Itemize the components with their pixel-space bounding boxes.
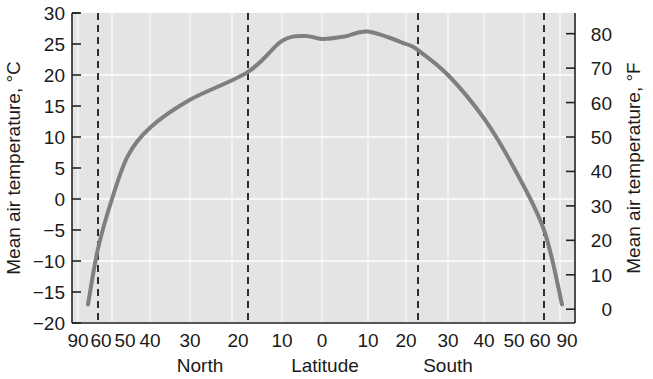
x-tick-label: 50 (503, 330, 524, 351)
y-right-tick-label: 20 (591, 230, 612, 251)
y-tick-label: 5 (54, 158, 65, 179)
y-tick-label: 30 (44, 3, 65, 24)
x-tick-label: 0 (317, 330, 328, 351)
temperature-latitude-chart: 302520151050−5−10−15−20 8070605040302010… (0, 0, 653, 379)
right-y-axis-title: Mean air temperature, °F (623, 62, 644, 273)
x-axis-tick-labels: 90605040302010010203040506090 (67, 330, 577, 351)
y-right-tick-label: 80 (591, 24, 612, 45)
x-tick-label: 60 (90, 330, 111, 351)
y-tick-label: 0 (54, 189, 65, 210)
x-tick-label: 10 (357, 330, 378, 351)
x-axis-label-south: South (423, 355, 473, 376)
x-tick-label: 50 (114, 330, 135, 351)
x-tick-label: 90 (556, 330, 577, 351)
x-tick-label: 30 (179, 330, 200, 351)
y-tick-label: 10 (44, 127, 65, 148)
x-tick-label: 20 (395, 330, 416, 351)
x-tick-label: 10 (271, 330, 292, 351)
x-axis-label-north: North (177, 355, 223, 376)
x-tick-label: 40 (139, 330, 160, 351)
y-right-tick-label: 0 (601, 299, 612, 320)
y-tick-label: 20 (44, 65, 65, 86)
plot-area (72, 13, 575, 323)
y-tick-label: −15 (33, 282, 65, 303)
y-right-tick-label: 60 (591, 93, 612, 114)
x-axis-title: Latitude (291, 355, 359, 376)
left-y-axis-title: Mean air temperature, °C (3, 61, 24, 275)
y-tick-label: −10 (33, 251, 65, 272)
y-right-tick-label: 50 (591, 127, 612, 148)
y-right-tick-label: 70 (591, 58, 612, 79)
y-tick-label: −20 (33, 313, 65, 334)
x-tick-label: 20 (227, 330, 248, 351)
y-right-tick-label: 10 (591, 265, 612, 286)
y-tick-label: 15 (44, 96, 65, 117)
x-tick-label: 40 (473, 330, 494, 351)
y-tick-label: −5 (43, 220, 65, 241)
y-right-tick-label: 40 (591, 161, 612, 182)
y-tick-label: 25 (44, 34, 65, 55)
x-tick-label: 60 (529, 330, 550, 351)
y-right-tick-label: 30 (591, 196, 612, 217)
x-tick-label: 30 (437, 330, 458, 351)
x-tick-label: 90 (67, 330, 88, 351)
